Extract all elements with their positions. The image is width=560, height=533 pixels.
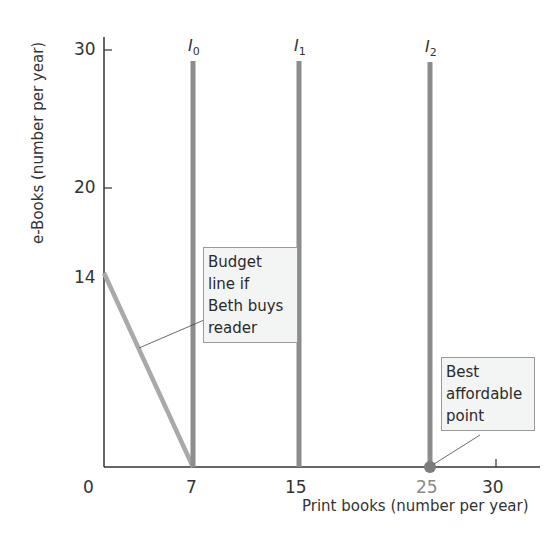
x-axis-label: Print books (number per year)	[302, 497, 529, 515]
best-affordable-point-marker	[424, 461, 436, 473]
callout-line: Best	[446, 361, 530, 383]
x-tick-label-15: 15	[285, 477, 307, 497]
y-tick-label-14: 14	[74, 267, 96, 287]
y-tick-label-20: 20	[74, 177, 96, 197]
callout-line: line if	[208, 273, 293, 295]
curve-label-i2: I2	[425, 37, 437, 59]
y-axis-label: e-Books (number per year)	[29, 44, 47, 244]
callout-line: Beth buys	[208, 295, 293, 317]
curve-label-i0: I0	[188, 36, 200, 58]
budget-line-callout: Budget line if Beth buys reader	[203, 247, 298, 343]
callout-line: reader	[208, 317, 293, 339]
callout-line: point	[446, 405, 530, 427]
x-tick-label-25: 25	[416, 477, 438, 497]
x-tick-label-7: 7	[186, 477, 197, 497]
y-tick-label-30: 30	[74, 39, 96, 59]
x-tick-label-0: 0	[83, 477, 94, 497]
x-tick-label-30: 30	[482, 477, 504, 497]
best-callout-leader	[434, 435, 480, 464]
best-affordable-point-callout: Best affordable point	[441, 357, 535, 431]
budget-line	[104, 273, 193, 467]
curve-label-i1: I1	[294, 36, 306, 58]
callout-line: affordable	[446, 383, 530, 405]
callout-line: Budget	[208, 251, 293, 273]
